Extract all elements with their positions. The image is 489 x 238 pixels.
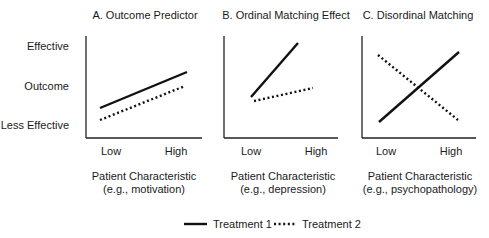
panel-b-x-low: Low [241, 145, 261, 158]
figure-graphics [0, 0, 489, 238]
panel-c-x-high: High [440, 145, 463, 158]
y-label-less-effective: Less Effective [1, 119, 69, 132]
panel-b-xlabel-line1: Patient Characteristic [231, 170, 336, 183]
panel-c-title: C. Disordinal Matching [363, 9, 474, 22]
panel-a-title: A. Outcome Predictor [92, 9, 197, 22]
panel-a-xlabel-line2: (e.g., motivation) [103, 183, 185, 196]
panel-b-title: B. Ordinal Matching Effect [222, 9, 350, 22]
panel-a-x-high: High [165, 145, 188, 158]
y-label-effective: Effective [27, 40, 69, 53]
panel-b-treatment1-line [251, 43, 298, 97]
legend-treatment1-label: Treatment 1 [213, 218, 272, 231]
panel-a-axes [86, 36, 202, 138]
y-label-outcome: Outcome [24, 80, 69, 93]
panel-b-x-high: High [305, 145, 328, 158]
legend-treatment2-label: Treatment 2 [302, 218, 361, 231]
panel-b-xlabel-line2: (e.g., depression) [240, 183, 326, 196]
panel-c-xlabel-line2: (e.g., psychopathology) [363, 183, 477, 196]
panel-a-xlabel-line1: Patient Characteristic [92, 170, 197, 183]
panel-c-x-low: Low [376, 145, 396, 158]
panel-b-axes [224, 36, 338, 138]
panel-b-treatment2-line [254, 88, 313, 101]
panel-c-xlabel-line1: Patient Characteristic [368, 170, 473, 183]
panel-a-x-low: Low [101, 145, 121, 158]
